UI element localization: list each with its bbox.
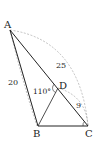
triangle-diagram: A B C D 20 25 9 110°: [0, 0, 100, 154]
label-c: C: [85, 128, 93, 139]
label-a: A: [3, 19, 12, 30]
angle-mark-c: [83, 122, 85, 127]
label-d: D: [59, 80, 67, 91]
label-dc-length: 9: [76, 101, 81, 110]
label-angle-adb: 110°: [33, 87, 51, 96]
label-b: B: [33, 128, 40, 139]
label-ac-length: 25: [56, 61, 66, 70]
label-ab-length: 20: [8, 78, 18, 87]
